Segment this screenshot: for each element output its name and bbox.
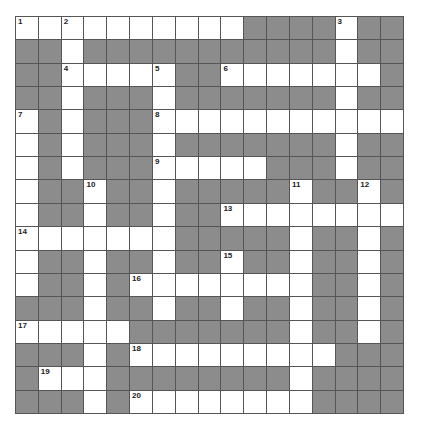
answer-cell[interactable] [153,227,175,249]
answer-cell[interactable] [84,274,106,296]
answer-cell[interactable] [221,344,243,366]
answer-cell[interactable] [39,17,61,39]
answer-cell[interactable] [358,274,380,296]
answer-cell[interactable] [62,134,84,156]
answer-cell[interactable] [358,204,380,226]
answer-cell[interactable]: 3 [336,17,358,39]
answer-cell[interactable] [290,227,312,249]
answer-cell[interactable]: 8 [153,110,175,132]
answer-cell[interactable] [107,64,129,86]
answer-cell[interactable] [221,157,243,179]
answer-cell[interactable] [358,110,380,132]
answer-cell[interactable] [336,204,358,226]
answer-cell[interactable] [153,134,175,156]
answer-cell[interactable] [39,321,61,343]
answer-cell[interactable] [62,40,84,62]
answer-cell[interactable] [381,204,403,226]
answer-cell[interactable]: 18 [130,344,152,366]
answer-cell[interactable] [221,274,243,296]
answer-cell[interactable] [62,321,84,343]
answer-cell[interactable] [267,204,289,226]
answer-cell[interactable] [244,274,266,296]
answer-cell[interactable] [336,157,358,179]
answer-cell[interactable] [107,227,129,249]
answer-cell[interactable]: 17 [16,321,38,343]
answer-cell[interactable] [313,344,335,366]
answer-cell[interactable] [267,274,289,296]
answer-cell[interactable] [153,87,175,109]
answer-cell[interactable] [176,344,198,366]
answer-cell[interactable] [358,227,380,249]
answer-cell[interactable] [244,344,266,366]
answer-cell[interactable]: 11 [290,180,312,202]
answer-cell[interactable] [62,367,84,389]
answer-cell[interactable] [221,391,243,413]
answer-cell[interactable]: 6 [221,64,243,86]
answer-cell[interactable] [153,180,175,202]
answer-cell[interactable]: 9 [153,157,175,179]
answer-cell[interactable] [84,367,106,389]
answer-cell[interactable] [107,17,129,39]
answer-cell[interactable] [313,64,335,86]
answer-cell[interactable] [290,391,312,413]
answer-cell[interactable] [336,64,358,86]
answer-cell[interactable] [221,17,243,39]
answer-cell[interactable]: 10 [84,180,106,202]
answer-cell[interactable] [290,251,312,273]
answer-cell[interactable] [199,344,221,366]
answer-cell[interactable] [16,134,38,156]
answer-cell[interactable] [176,110,198,132]
answer-cell[interactable] [84,297,106,319]
answer-cell[interactable] [176,391,198,413]
answer-cell[interactable] [153,251,175,273]
answer-cell[interactable] [290,110,312,132]
answer-cell[interactable] [16,274,38,296]
answer-cell[interactable] [290,64,312,86]
answer-cell[interactable] [290,344,312,366]
answer-cell[interactable] [199,110,221,132]
answer-cell[interactable] [153,204,175,226]
answer-cell[interactable] [267,391,289,413]
answer-cell[interactable] [62,110,84,132]
answer-cell[interactable] [176,157,198,179]
answer-cell[interactable] [358,64,380,86]
answer-cell[interactable]: 15 [221,251,243,273]
answer-cell[interactable] [358,297,380,319]
answer-cell[interactable]: 7 [16,110,38,132]
answer-cell[interactable] [267,64,289,86]
answer-cell[interactable] [244,110,266,132]
answer-cell[interactable] [16,251,38,273]
answer-cell[interactable] [244,204,266,226]
answer-cell[interactable] [199,274,221,296]
answer-cell[interactable] [39,227,61,249]
answer-cell[interactable] [290,367,312,389]
answer-cell[interactable] [62,87,84,109]
answer-cell[interactable] [313,204,335,226]
answer-cell[interactable]: 16 [130,274,152,296]
answer-cell[interactable]: 5 [153,64,175,86]
answer-cell[interactable] [199,391,221,413]
answer-cell[interactable] [199,157,221,179]
answer-cell[interactable] [244,157,266,179]
answer-cell[interactable] [290,204,312,226]
answer-cell[interactable] [336,110,358,132]
answer-cell[interactable] [244,64,266,86]
answer-cell[interactable] [84,344,106,366]
answer-cell[interactable] [358,321,380,343]
answer-cell[interactable] [290,297,312,319]
answer-cell[interactable] [84,17,106,39]
answer-cell[interactable] [336,134,358,156]
answer-cell[interactable]: 19 [39,367,61,389]
answer-cell[interactable] [62,227,84,249]
answer-cell[interactable] [62,157,84,179]
answer-cell[interactable] [176,17,198,39]
answer-cell[interactable] [221,110,243,132]
answer-cell[interactable] [313,110,335,132]
answer-cell[interactable] [84,251,106,273]
answer-cell[interactable] [153,391,175,413]
answer-cell[interactable] [381,110,403,132]
answer-cell[interactable] [84,321,106,343]
answer-cell[interactable] [244,391,266,413]
answer-cell[interactable] [153,297,175,319]
answer-cell[interactable] [336,40,358,62]
